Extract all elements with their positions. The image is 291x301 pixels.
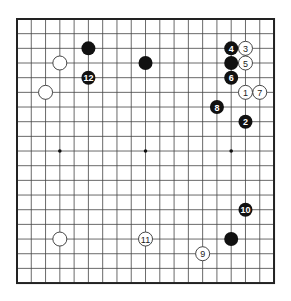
black-stone [139, 56, 153, 70]
white-stone [53, 56, 67, 70]
white-stone-shape [39, 85, 53, 99]
go-board: 124356178210119 [0, 0, 291, 301]
black-stone [81, 41, 95, 55]
move-number: 3 [243, 44, 248, 54]
black-stone: 6 [224, 71, 238, 85]
white-stone-shape [53, 232, 67, 246]
star-point [58, 149, 62, 153]
black-stone: 4 [224, 41, 238, 55]
star-point [229, 149, 233, 153]
move-number: 10 [240, 205, 250, 215]
white-stone: 7 [253, 85, 267, 99]
black-stone-shape [81, 41, 95, 55]
black-stone-shape [139, 56, 153, 70]
black-stone-shape [224, 56, 238, 70]
star-point [144, 149, 148, 153]
move-number: 7 [257, 88, 262, 98]
move-number: 11 [141, 235, 150, 245]
move-number: 1 [243, 88, 248, 98]
black-stone [224, 232, 238, 246]
black-stone [224, 56, 238, 70]
move-number: 5 [243, 59, 248, 69]
move-number: 6 [229, 73, 234, 83]
black-stone-shape [224, 232, 238, 246]
black-stone: 10 [238, 203, 252, 217]
white-stone: 5 [238, 56, 252, 70]
move-number: 12 [83, 73, 93, 83]
white-stone-shape [53, 56, 67, 70]
black-stone: 8 [210, 100, 224, 114]
black-stone: 2 [238, 115, 252, 129]
move-number: 4 [229, 44, 234, 54]
white-stone: 9 [196, 247, 210, 261]
move-number: 8 [214, 103, 219, 113]
white-stone [39, 85, 53, 99]
move-number: 9 [200, 249, 205, 259]
white-stone: 1 [238, 85, 252, 99]
move-number: 2 [243, 117, 248, 127]
white-stone: 11 [139, 232, 153, 246]
white-stone [53, 232, 67, 246]
black-stone: 12 [81, 71, 95, 85]
white-stone: 3 [238, 41, 252, 55]
